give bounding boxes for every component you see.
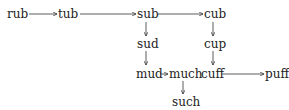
word-cuff: cuff — [201, 67, 224, 81]
word-tub: tub — [58, 7, 78, 21]
word-rub: rub — [7, 7, 28, 21]
word-such: such — [172, 95, 200, 109]
word-cub: cub — [204, 7, 226, 21]
word-cup: cup — [204, 37, 226, 51]
word-sub: sub — [137, 7, 159, 21]
word-sud: sud — [137, 37, 159, 51]
word-mud: mud — [136, 67, 163, 81]
word-much: much — [169, 67, 203, 81]
word-puff: puff — [265, 67, 289, 81]
